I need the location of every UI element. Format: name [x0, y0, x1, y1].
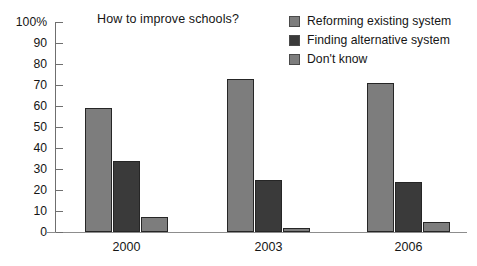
- bar[interactable]: [113, 161, 140, 232]
- y-tick-label: 10: [33, 204, 47, 218]
- bar[interactable]: [367, 83, 394, 232]
- bar[interactable]: [141, 217, 168, 232]
- y-tick-label: 80: [33, 57, 47, 71]
- bar[interactable]: [85, 108, 112, 232]
- x-axis-line: [47, 232, 467, 233]
- y-tick-label: 0: [40, 225, 47, 239]
- y-tick-label: 30: [33, 162, 47, 176]
- y-tick-mark: [56, 148, 63, 149]
- bar-group: [367, 22, 450, 232]
- y-tick-mark: [56, 190, 63, 191]
- y-tick-label: 70: [33, 78, 47, 92]
- x-axis-label: 2000: [113, 240, 141, 254]
- plot-area: 100%9080706050403020100 200020032006: [55, 22, 447, 232]
- y-tick-label: 100%: [16, 15, 47, 29]
- y-tick-label: 40: [33, 141, 47, 155]
- bar-chart: How to improve schools? Reforming existi…: [0, 0, 477, 266]
- y-tick-mark: [56, 64, 63, 65]
- bar-group: [227, 22, 310, 232]
- bar[interactable]: [227, 79, 254, 232]
- y-tick-mark: [56, 169, 63, 170]
- y-tick-mark: [56, 127, 63, 128]
- bar[interactable]: [395, 182, 422, 232]
- bar[interactable]: [423, 222, 450, 233]
- y-tick-mark: [56, 85, 63, 86]
- x-axis-label: 2006: [395, 240, 423, 254]
- y-tick-mark: [56, 43, 63, 44]
- y-tick-mark: [56, 211, 63, 212]
- y-tick-label: 20: [33, 183, 47, 197]
- x-axis-label: 2003: [255, 240, 283, 254]
- bar[interactable]: [255, 180, 282, 233]
- y-tick-label: 90: [33, 36, 47, 50]
- y-tick-mark: [56, 106, 63, 107]
- y-tick-label: 50: [33, 120, 47, 134]
- bar-group: [85, 22, 168, 232]
- y-tick-mark: [56, 232, 63, 233]
- bar[interactable]: [283, 228, 310, 232]
- y-tick-label: 60: [33, 99, 47, 113]
- y-tick-mark: [56, 22, 63, 23]
